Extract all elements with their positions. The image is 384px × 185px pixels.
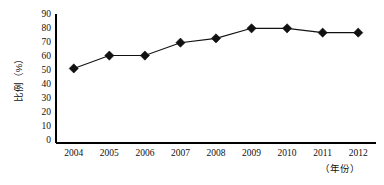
x-tick-label: 2011: [313, 148, 332, 158]
x-tick-label: 2012: [349, 148, 368, 158]
y-tick-label: 0: [46, 135, 51, 145]
y-tick-label: 10: [42, 121, 52, 131]
chart-canvas: 90 80 70 60 50 40 30 20 10 0 比例（%） 20042…: [0, 0, 384, 185]
y-tick-label: 60: [42, 51, 52, 61]
line-chart: 90 80 70 60 50 40 30 20 10 0 比例（%） 20042…: [0, 0, 384, 185]
x-tick-label: 2006: [135, 148, 154, 158]
x-tick-labels: 200420052006200720082009201020112012: [64, 148, 368, 158]
x-tick-label: 2005: [100, 148, 119, 158]
y-tick-label: 70: [42, 37, 52, 47]
y-axis-title: 比例（%）: [13, 54, 24, 102]
x-tick-label: 2004: [64, 148, 83, 158]
y-tick-label: 80: [42, 23, 52, 33]
y-tick-label: 50: [42, 65, 52, 75]
x-tick-label: 2010: [278, 148, 297, 158]
y-tick-label: 40: [42, 79, 52, 89]
x-tick-label: 2009: [242, 148, 261, 158]
y-tick-label: 90: [42, 9, 52, 19]
x-tick-label: 2007: [171, 148, 190, 158]
y-tick-label: 30: [42, 93, 52, 103]
y-tick-label: 20: [42, 107, 52, 117]
x-tick-label: 2008: [207, 148, 226, 158]
x-axis-title: （年份）: [320, 163, 360, 174]
